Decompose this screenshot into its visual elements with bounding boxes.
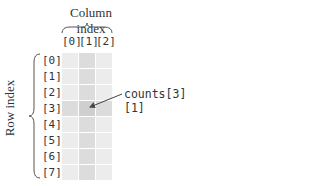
callout-label: counts[3][1] (124, 87, 203, 115)
